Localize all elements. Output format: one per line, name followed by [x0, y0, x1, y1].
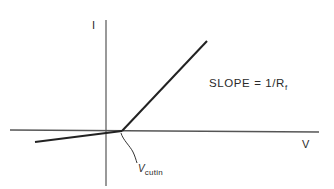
- x-axis: [10, 130, 319, 132]
- x-axis-label: V: [302, 138, 310, 150]
- forward-bias-segment: [122, 41, 207, 131]
- slope-annotation-subscript: f: [285, 83, 288, 92]
- slope-annotation-text: SLOPE = 1/R: [209, 77, 285, 89]
- iv-characteristic-diagram: I V SLOPE = 1/Rf Vcutin: [0, 0, 334, 189]
- cutin-voltage-label: Vcutin: [138, 163, 163, 177]
- y-axis-label: I: [92, 19, 95, 31]
- cutin-leader-line: [121, 133, 137, 163]
- cutin-voltage-subscript: cutin: [145, 168, 163, 177]
- reverse-bias-segment: [35, 131, 122, 142]
- slope-annotation: SLOPE = 1/Rf: [209, 77, 288, 92]
